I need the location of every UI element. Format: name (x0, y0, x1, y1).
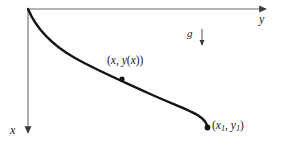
brachistochrone-curve (28, 9, 208, 128)
y-axis-label: y (259, 13, 264, 25)
paren-close-end: ) (240, 119, 244, 131)
gravity-label: g (187, 28, 193, 39)
brachistochrone-figure: y x g (x, y(x)) (x1, y1) (0, 0, 283, 148)
x-axis-label: x (10, 124, 15, 136)
curve-endpoint-marker (205, 125, 211, 131)
curve-endpoint-label: (x1, y1) (212, 120, 244, 133)
curve-point-label: (x, y(x)) (107, 55, 143, 67)
curve-point-marker (119, 76, 124, 81)
paren-close: ) (140, 54, 144, 66)
